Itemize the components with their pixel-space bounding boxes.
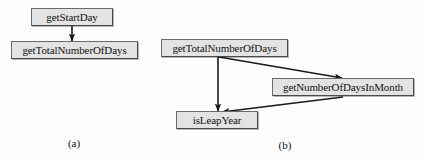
node-get-number-of-days-in-month[interactable]: getNumberOfDaysInMonth: [272, 78, 414, 96]
node-label: getTotalNumberOfDays: [172, 43, 276, 54]
node-is-leap-year[interactable]: isLeapYear: [176, 111, 258, 129]
call-graph-figure: getStartDay getTotalNumberOfDays (a) get…: [0, 0, 424, 160]
node-get-total-number-of-days-a[interactable]: getTotalNumberOfDays: [11, 41, 138, 59]
node-label: getNumberOfDaysInMonth: [283, 82, 403, 93]
node-label: isLeapYear: [193, 115, 242, 126]
caption-panel-a: (a): [44, 137, 104, 149]
edge-b-getnumberofdaysinmonth-to-isleapyear: [222, 97, 343, 112]
edge-b-gettotalnumberofdays-to-getnumberofdaysinmonth: [219, 57, 342, 78]
node-label: getTotalNumberOfDays: [22, 45, 126, 56]
node-get-start-day[interactable]: getStartDay: [31, 8, 113, 26]
caption-panel-b: (b): [255, 139, 315, 151]
node-get-total-number-of-days-b[interactable]: getTotalNumberOfDays: [161, 39, 288, 57]
node-label: getStartDay: [46, 12, 97, 23]
